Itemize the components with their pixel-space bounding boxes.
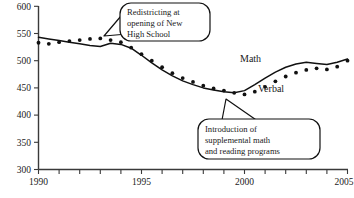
data-point (98, 37, 102, 41)
data-point (181, 76, 185, 80)
series-labels: Math Verbal (240, 53, 284, 94)
x-tick-label-1990: 1990 (29, 177, 48, 187)
data-point (294, 71, 298, 75)
data-point (304, 68, 308, 72)
y-tick-label-500: 500 (17, 56, 32, 66)
data-point (222, 89, 226, 93)
redistricting-line-2: opening of New (127, 18, 183, 28)
data-point (109, 38, 113, 42)
data-point (212, 87, 216, 91)
data-point (243, 93, 247, 97)
chart-container: 300 350 400 450 500 550 600 1 (0, 0, 354, 198)
supplemental-line-2: supplemental math (205, 135, 271, 145)
data-point (57, 40, 61, 44)
data-point (129, 46, 133, 50)
series-line-math (39, 37, 348, 92)
data-point (140, 52, 144, 56)
y-axis-ticks: 300 350 400 450 500 550 600 (17, 2, 39, 175)
series-label-math: Math (240, 53, 261, 64)
data-point (68, 39, 72, 43)
x-tick-label-1995: 1995 (132, 177, 151, 187)
y-tick-label-400: 400 (17, 110, 32, 120)
data-point (284, 75, 288, 79)
data-point (171, 71, 175, 75)
data-point (335, 65, 339, 69)
data-series-layer (37, 37, 350, 97)
series-dots-verbal (37, 37, 350, 97)
annotation-supplemental-programs: Introduction of supplemental math and re… (198, 99, 320, 159)
data-point (315, 66, 319, 70)
supplemental-line-1: Introduction of (205, 124, 257, 134)
data-point (88, 37, 92, 41)
data-point (253, 90, 257, 94)
data-point (325, 68, 329, 72)
data-point (346, 59, 350, 63)
x-axis-ticks: 1990 1995 2000 2005 (29, 170, 354, 188)
data-point (232, 91, 236, 95)
line-chart: 300 350 400 450 500 550 600 1 (0, 0, 354, 198)
data-point (47, 42, 51, 46)
data-point (160, 65, 164, 69)
data-point (37, 41, 41, 45)
data-point (201, 84, 205, 88)
y-tick-label-600: 600 (17, 2, 32, 12)
data-point (150, 59, 154, 63)
redistricting-line-3: High School (127, 29, 171, 39)
y-tick-label-550: 550 (17, 29, 32, 39)
y-tick-label-300: 300 (17, 165, 32, 175)
series-label-verbal: Verbal (258, 83, 284, 94)
x-tick-label-2000: 2000 (235, 177, 254, 187)
x-tick-label-2005: 2005 (335, 177, 354, 187)
data-point (78, 38, 82, 42)
data-point (119, 40, 123, 44)
y-tick-label-450: 450 (17, 83, 32, 93)
annotation-redistricting: Redistricting at opening of New High Sch… (104, 3, 210, 41)
supplemental-line-3: and reading programs (205, 146, 281, 156)
data-point (191, 80, 195, 84)
redistricting-line-1: Redistricting at (127, 7, 180, 17)
y-tick-label-350: 350 (17, 138, 32, 148)
